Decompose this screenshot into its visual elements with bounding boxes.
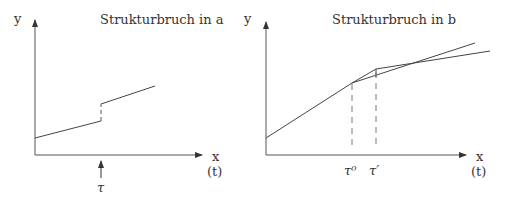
x-sublabel-a: (t) [207, 164, 222, 179]
line-after-tau-prime [376, 51, 490, 69]
line-before-break-b [266, 83, 352, 138]
title-a: Strukturbruch in a [100, 12, 224, 27]
tau-label: τ [97, 180, 105, 195]
tau0-label: τ⁰ [344, 163, 357, 178]
panel-a [35, 20, 202, 178]
line-before-break-a [35, 121, 101, 138]
title-b: Strukturbruch in b [332, 12, 456, 27]
x-label-a: x [212, 149, 220, 164]
x-sublabel-b: (t) [471, 164, 486, 179]
structural-break-diagram: y Strukturbruch in a x (t) τ y Strukturb… [0, 0, 506, 198]
panel-b [266, 22, 490, 155]
x-label-b: x [476, 149, 484, 164]
tau-prime-label: τ′ [369, 163, 379, 178]
line-after-tau0 [352, 43, 475, 83]
y-label-a: y [13, 11, 22, 26]
line-after-break-a [101, 86, 155, 104]
y-label-b: y [243, 11, 252, 26]
